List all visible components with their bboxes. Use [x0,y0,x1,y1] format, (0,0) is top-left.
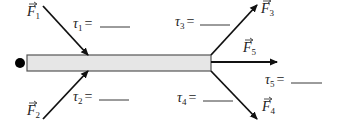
equals-sign: = [187,14,195,29]
torque-symbol: τ4= [177,90,197,107]
force-subscript: 1 [36,11,41,21]
torque-subscript: 1 [78,23,83,33]
torque-subscript: 4 [182,97,187,107]
torque-symbol: τ1= [73,16,93,33]
force-subscript: 2 [36,110,41,120]
force-symbol: F1 [26,4,40,21]
torque-label-tau4: τ4= [177,90,233,107]
torque-subscript: 3 [180,21,185,31]
equals-sign: = [85,16,93,31]
force-symbol: F4 [261,99,276,116]
force-symbol: F5 [242,40,257,57]
force-label-f4: F4 [261,97,276,116]
torque-subscript: 2 [78,96,83,106]
force-label-f3: F3 [260,0,275,18]
force-symbol: F3 [260,1,275,18]
force-arrow-f4 [211,71,257,119]
force-label-f1: F1 [26,2,40,21]
rod [27,55,211,71]
equals-sign: = [85,89,93,104]
torque-label-tau3: τ3= [175,14,230,31]
force-subscript: 3 [270,8,275,18]
force-label-f5: F5 [242,38,257,57]
equals-sign: = [189,90,197,105]
torque-symbol: τ5= [265,72,285,89]
force-symbol: F2 [26,103,40,120]
torque-subscript: 5 [270,79,275,89]
torque-label-tau1: τ1= [73,16,130,33]
torque-symbol: τ2= [73,89,93,106]
pivot-point [15,58,25,68]
force-subscript: 4 [271,106,276,116]
force-subscript: 5 [252,47,257,57]
torque-label-tau2: τ2= [73,89,129,106]
force-arrow-f2 [43,71,88,119]
torque-symbol: τ3= [175,14,195,31]
torque-diagram: F1F2F3F4F5 τ1=τ2=τ3=τ4=τ5= [0,0,339,128]
diagram-svg: F1F2F3F4F5 τ1=τ2=τ3=τ4=τ5= [0,0,339,128]
torque-label-tau5: τ5= [265,72,322,89]
force-label-f2: F2 [26,101,40,120]
equals-sign: = [277,72,285,87]
